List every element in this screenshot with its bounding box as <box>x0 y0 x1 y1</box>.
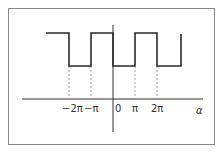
tick-label-pi: π <box>132 103 138 114</box>
tick-label-2pi: 2π <box>151 103 163 114</box>
tick-label-zero: 0 <box>115 103 121 114</box>
axis-label-alpha: α <box>196 105 203 116</box>
square-wave-line <box>46 33 181 66</box>
square-wave-diagram: −2π −π 0 π 2π α <box>0 0 223 152</box>
tick-label-neg-pi: −π <box>84 103 98 114</box>
tick-label-neg-2pi: −2π <box>62 103 83 114</box>
